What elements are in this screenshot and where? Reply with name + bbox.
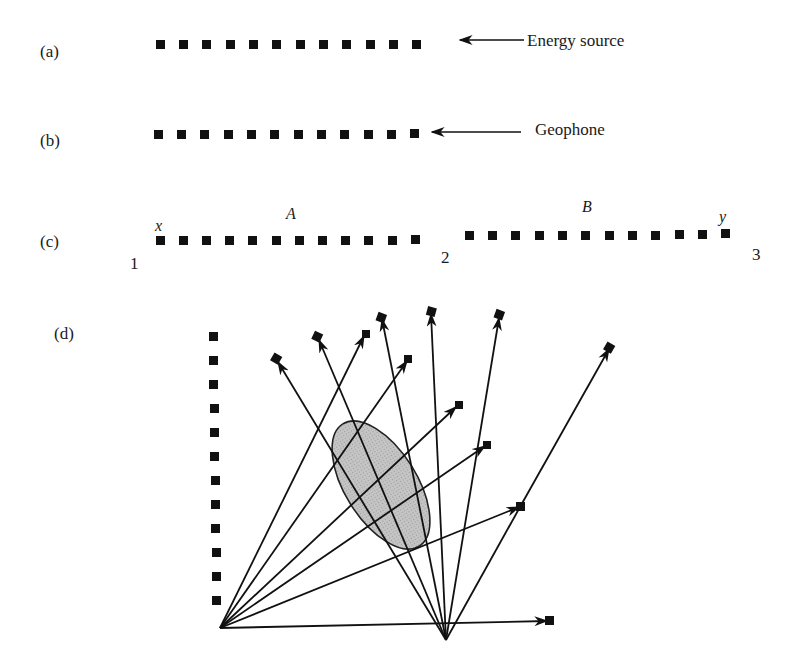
panel-label-c: (c) xyxy=(40,232,59,251)
borehole-geophone-array xyxy=(209,332,221,605)
seismic-survey-figure: (a) Energy source (b) xyxy=(0,0,797,663)
geophone-array-b xyxy=(465,229,730,240)
segment-label-a: A xyxy=(285,205,296,222)
annotation-energy-source: Energy source xyxy=(527,31,624,50)
source-star-icon xyxy=(438,229,452,243)
geophone-array-a xyxy=(156,235,420,245)
source-star-icon xyxy=(440,35,454,49)
panel-label-b: (b) xyxy=(40,131,60,150)
source-star-icon xyxy=(126,38,140,52)
end-label-x: x xyxy=(154,217,162,234)
panel-c: (c) 1 x A 2 B xyxy=(40,198,761,273)
segment-label-b: B xyxy=(582,198,592,215)
panel-d: (d) xyxy=(54,306,615,648)
geophone-array xyxy=(156,40,421,49)
end-label-y: y xyxy=(717,208,727,226)
panel-label-a: (a) xyxy=(40,42,59,61)
geophone-array xyxy=(154,129,419,139)
panel-a: (a) Energy source xyxy=(40,31,624,61)
rays-from-source-2 xyxy=(278,314,609,640)
source-star-icon xyxy=(150,109,164,123)
source-number-1: 1 xyxy=(130,254,139,273)
source-star-icon xyxy=(747,226,761,240)
source-number-3: 3 xyxy=(752,245,761,264)
panel-b: (b) Geophone xyxy=(40,102,605,150)
source-star-icon xyxy=(127,234,141,248)
source-star-icon xyxy=(411,102,425,116)
annotation-geophone: Geophone xyxy=(535,120,605,139)
panel-label-d: (d) xyxy=(54,324,74,343)
source-number-2: 2 xyxy=(441,248,450,267)
